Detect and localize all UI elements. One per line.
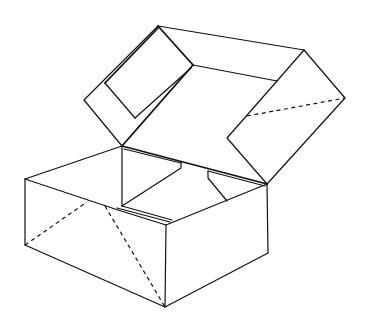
box-inner-left-flap [122,162,181,206]
lid-right-flap-inner [227,81,277,184]
fold-line-lid-flap [247,98,345,116]
box-hinge-edge [122,146,267,184]
box-bottom-right-edge [165,253,268,307]
lid-left-window-side [105,83,135,118]
box-hinge-double-left [124,149,181,163]
box-inner-front-lip [117,208,170,222]
lid-inner-left-double [135,68,191,118]
open-box-drawing [0,0,369,326]
lid-left-flap-outline [84,26,158,146]
lid-top-edge [158,26,304,50]
lid-inner-left-edge [122,65,193,146]
lid-right-flap-outer [267,50,345,184]
lid [84,26,345,184]
fold-line-left-side [25,202,87,245]
box-hinge-double-right [208,171,265,186]
box-right-vertical [267,184,268,253]
fold-lines [25,98,345,307]
box-body [25,146,268,307]
box-right-top-edge [166,184,267,225]
fold-line-front-side [105,206,165,307]
box-top-back-edge [25,146,122,179]
lid-inner-back-edge [193,65,277,81]
box-front-vertical [165,225,166,307]
lid-right-flap-hinge [277,50,304,81]
box-diagram [0,0,369,326]
box-front-top-edge [25,179,166,225]
lid-left-hinge [158,26,193,65]
lid-left-window-top [105,28,158,83]
box-bottom-left-edge [25,245,165,307]
